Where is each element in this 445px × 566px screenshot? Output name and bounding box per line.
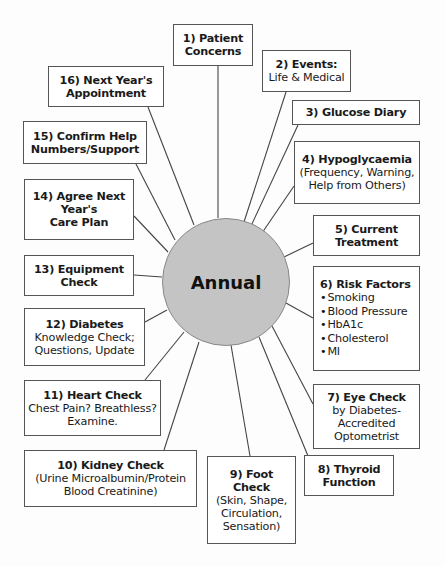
center-circle: Annual [162,218,290,346]
node-detail-line: Chest Pain? Breathless? [25,402,160,415]
center-label: Annual [191,272,262,293]
risk-factor-item: Blood Pressure [320,305,419,319]
node-next-appointment: 16) Next Year'sAppointment [48,66,164,107]
node-equipment-check: 13) EquipmentCheck [24,255,134,296]
connector-line-14 [134,216,168,252]
node-title-line: 6) Risk Factors [320,278,419,291]
node-title-line: Numbers/Support [24,143,146,156]
node-title-line: 4) Hypoglycaemia [295,153,419,166]
node-thyroid-function: 8) ThyroidFunction [304,455,394,496]
connector-line-12 [145,310,167,322]
node-eye-check: 7) Eye Checkby Diabetes-AccreditedOptome… [313,384,420,449]
node-detail-line: Help from Others) [295,179,419,192]
node-current-treatment: 5) CurrentTreatment [313,215,420,256]
node-detail-line: (Urine Microalbumin/Protein [25,472,196,485]
node-title-line: 10) Kidney Check [25,459,196,472]
node-detail-line: Sensation) [208,520,295,533]
risk-factor-list: SmokingBlood PressureHbA1cCholesterolMI [320,291,419,359]
node-detail-line: (Frequency, Warning, [295,166,419,179]
connector-line-8 [259,337,308,456]
node-title-line: 3) Glucose Diary [293,106,419,119]
node-risk-factors: 6) Risk FactorsSmokingBlood PressureHbA1… [313,266,420,371]
node-diabetes-knowledge: 12) DiabetesKnowledge Check;Questions, U… [24,308,145,366]
node-kidney-check: 10) Kidney Check(Urine Microalbumin/Prot… [24,450,197,507]
risk-factor-item: Smoking [320,291,419,305]
node-detail-line: Accredited [314,417,419,430]
node-hypoglycaemia: 4) Hypoglycaemia(Frequency, Warning,Help… [294,141,420,204]
risk-factor-item: HbA1c [320,318,419,332]
connector-line-2 [244,92,286,222]
node-detail-line: Life & Medical [263,71,350,84]
node-title-line: Concerns [174,45,252,58]
connector-line-13 [134,275,162,277]
node-patient-concerns: 1) PatientConcerns [173,24,253,66]
node-title-line: Appointment [49,87,163,100]
node-title-line: Treatment [314,236,419,249]
node-detail-line: Questions, Update [25,344,144,357]
node-title-line: 8) Thyroid [305,463,393,476]
node-confirm-help: 15) Confirm HelpNumbers/Support [23,121,147,164]
node-detail-line: by Diabetes- [314,404,419,417]
node-title-line: 1) Patient [174,32,252,45]
node-foot-check: 9) FootCheck(Skin, Shape,Circulation,Sen… [207,456,296,544]
connector-line-3 [251,125,298,226]
node-events: 2) Events:Life & Medical [262,50,351,92]
node-detail-line: Optometrist [314,430,419,443]
node-title-line: 11) Heart Check [25,389,160,402]
node-detail-line: (Skin, Shape, [208,494,295,507]
risk-factor-item: MI [320,345,419,359]
connector-line-15 [136,164,175,240]
node-detail-line: Examine. [25,415,160,428]
node-detail-line: Knowledge Check; [25,331,144,344]
node-title-line: 2) Events: [263,58,350,71]
connector-line-7 [272,326,313,404]
connector-line-9 [231,345,250,456]
connector-line-11 [145,332,184,380]
node-title-line: 16) Next Year's [49,74,163,87]
node-title-line: Care Plan [25,216,133,229]
node-title-line: Check [208,481,295,494]
node-agree-care-plan: 14) Agree NextYear'sCare Plan [24,179,134,240]
node-detail-line: Circulation, [208,507,295,520]
connector-line-6 [286,303,313,318]
node-title-line: 7) Eye Check [314,391,419,404]
node-heart-check: 11) Heart CheckChest Pain? Breathless?Ex… [24,380,161,436]
node-title-line: 5) Current [314,223,419,236]
connector-line-5 [284,243,313,257]
node-title-line: Check [25,276,133,289]
node-title-line: Year's [25,203,133,216]
node-title-line: Function [305,476,393,489]
node-glucose-diary: 3) Glucose Diary [292,100,420,125]
connector-line-16 [148,107,194,225]
annual-review-diagram: Annual 1) PatientConcerns 2) Events:Life… [0,0,445,566]
node-title-line: 9) Foot [208,468,295,481]
connector-line-10 [164,342,199,450]
node-title-line: 15) Confirm Help [24,130,146,143]
node-title-line: 13) Equipment [25,263,133,276]
node-title-line: 14) Agree Next [25,190,133,203]
node-detail-line: Blood Creatinine) [25,485,196,498]
node-title-line: 12) Diabetes [25,318,144,331]
risk-factor-item: Cholesterol [320,332,419,346]
